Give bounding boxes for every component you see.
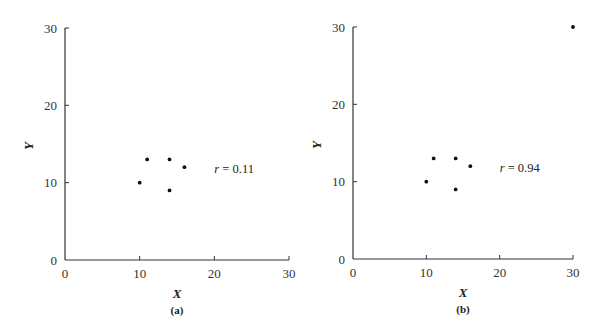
data-point bbox=[424, 180, 428, 184]
data-point bbox=[468, 164, 472, 168]
y-tick-label: 20 bbox=[332, 97, 345, 112]
data-point bbox=[168, 189, 172, 193]
scatter-panel-b: 01020300102030XY(b)r = 0.94 bbox=[288, 0, 587, 326]
y-tick-label: 30 bbox=[332, 20, 345, 35]
data-point bbox=[183, 165, 187, 169]
y-tick-label: 0 bbox=[51, 253, 58, 268]
panel-caption: (b) bbox=[456, 303, 470, 316]
x-axis-label: X bbox=[458, 285, 468, 300]
data-point bbox=[571, 25, 575, 29]
data-point bbox=[454, 188, 458, 192]
panel-caption: (a) bbox=[171, 304, 184, 317]
y-axis-label: Y bbox=[309, 140, 324, 149]
x-tick-label: 10 bbox=[420, 265, 433, 280]
y-tick-label: 10 bbox=[44, 175, 57, 190]
y-axis-label: Y bbox=[21, 141, 36, 150]
scatter-plot-a: 01020300102030XY(a)r = 0.11 bbox=[0, 0, 299, 326]
x-tick-label: 20 bbox=[208, 266, 221, 281]
data-point bbox=[432, 157, 436, 161]
x-axis-label: X bbox=[172, 286, 182, 301]
y-tick-label: 30 bbox=[44, 21, 57, 36]
data-point bbox=[454, 157, 458, 161]
x-tick-label: 0 bbox=[350, 265, 357, 280]
correlation-annotation: r = 0.94 bbox=[500, 161, 541, 175]
correlation-annotation: r = 0.11 bbox=[214, 162, 254, 176]
y-tick-label: 0 bbox=[339, 252, 346, 267]
scatter-plot-b: 01020300102030XY(b)r = 0.94 bbox=[288, 0, 598, 326]
scatter-panel-a: 01020300102030XY(a)r = 0.11 bbox=[0, 0, 299, 326]
y-tick-label: 20 bbox=[44, 98, 57, 113]
x-tick-label: 30 bbox=[567, 265, 580, 280]
data-point bbox=[168, 158, 172, 162]
x-tick-label: 10 bbox=[133, 266, 146, 281]
x-tick-label: 20 bbox=[493, 265, 506, 280]
x-tick-label: 0 bbox=[62, 266, 69, 281]
y-tick-label: 10 bbox=[332, 174, 345, 189]
data-point bbox=[145, 158, 149, 162]
data-point bbox=[138, 181, 142, 185]
